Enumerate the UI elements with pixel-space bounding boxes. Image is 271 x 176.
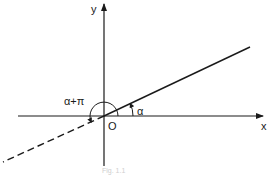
alpha-plus-pi-label: α+π xyxy=(64,95,85,107)
figure-caption: Fig. 1.1 xyxy=(102,167,125,175)
solid-ray xyxy=(104,47,250,116)
angle-diagram: y x O α α+π Fig. 1.1 xyxy=(0,0,271,176)
dashed-ray xyxy=(3,116,104,162)
x-axis-label: x xyxy=(261,120,267,132)
alpha-label: α xyxy=(137,105,144,117)
y-axis-label: y xyxy=(91,3,97,15)
origin-label: O xyxy=(108,120,117,132)
alpha-arc xyxy=(130,104,133,116)
